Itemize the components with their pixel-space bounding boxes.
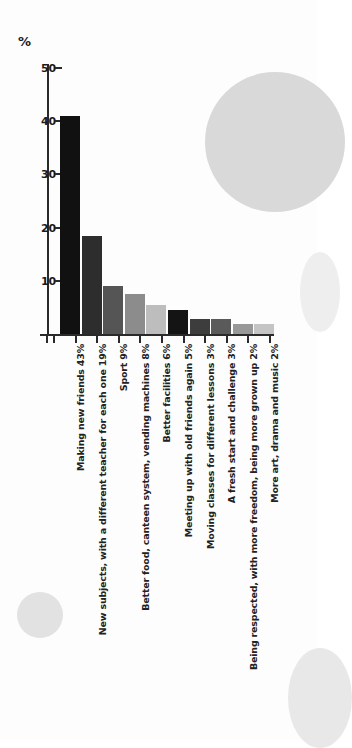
category-label: Better facilities 6% <box>162 344 172 442</box>
bar <box>82 236 102 334</box>
bars-container <box>0 0 317 336</box>
bar <box>233 324 253 334</box>
x-tick-mark <box>247 336 249 343</box>
category-label: Better food, canteen system, vending mac… <box>141 344 151 611</box>
x-tick-mark <box>139 336 141 343</box>
category-label: Sport 9% <box>119 344 129 391</box>
bar <box>146 305 166 334</box>
x-tick-mark <box>75 336 77 343</box>
category-label: Moving classes for different lessons 3% <box>206 344 216 549</box>
bar <box>103 286 123 334</box>
x-axis-origin-tick <box>46 336 48 343</box>
bar <box>125 294 145 334</box>
x-tick-mark <box>118 336 120 343</box>
bar <box>60 116 80 334</box>
x-tick-mark <box>183 336 185 343</box>
category-label: New subjects, with a different teacher f… <box>98 344 108 635</box>
bar <box>168 310 188 334</box>
category-label: Making new friends 43% <box>76 344 86 471</box>
x-tick-mark <box>204 336 206 343</box>
x-tick-mark <box>269 336 271 343</box>
category-labels-container: Making new friends 43%New subjects, with… <box>0 344 317 674</box>
category-label: A fresh start and challenge 3% <box>227 344 237 503</box>
bar <box>190 319 210 334</box>
category-label: More art, drama and music 2% <box>270 344 280 503</box>
x-tick-mark <box>53 336 55 343</box>
category-label: Meeting up with old friends again 5% <box>184 344 194 537</box>
category-label: Being respected, with more freedom, bein… <box>249 344 259 670</box>
x-tick-mark <box>161 336 163 343</box>
x-tick-mark <box>96 336 98 343</box>
bar <box>211 319 231 334</box>
x-tick-mark <box>226 336 228 343</box>
bar <box>254 324 274 334</box>
